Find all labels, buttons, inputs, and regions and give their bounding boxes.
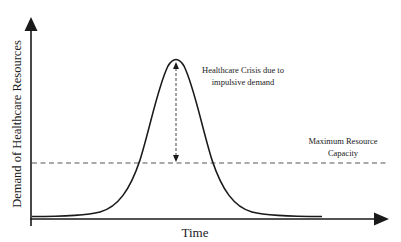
y-axis-label: Demand of Healthcare Resources (10, 40, 24, 208)
demand-curve (32, 60, 322, 217)
crisis-annotation-line2: impulsive demand (212, 77, 275, 87)
arrow-up-icon (173, 62, 179, 69)
capacity-annotation-line1: Maximum Resource (308, 136, 377, 146)
arrow-down-icon (173, 155, 179, 162)
crisis-annotation-line1: Healthcare Crisis due to (202, 65, 284, 75)
demand-capacity-diagram: Healthcare Crisis due to impulsive deman… (0, 0, 401, 242)
crisis-gap-arrow (173, 62, 179, 162)
x-axis-arrowhead-icon (374, 213, 389, 226)
x-axis-label: Time (182, 225, 209, 240)
capacity-annotation-line2: Capacity (328, 148, 359, 158)
y-axis-arrowhead-icon (25, 17, 38, 31)
y-axis (25, 17, 38, 226)
diagram-canvas: Healthcare Crisis due to impulsive deman… (0, 0, 401, 242)
